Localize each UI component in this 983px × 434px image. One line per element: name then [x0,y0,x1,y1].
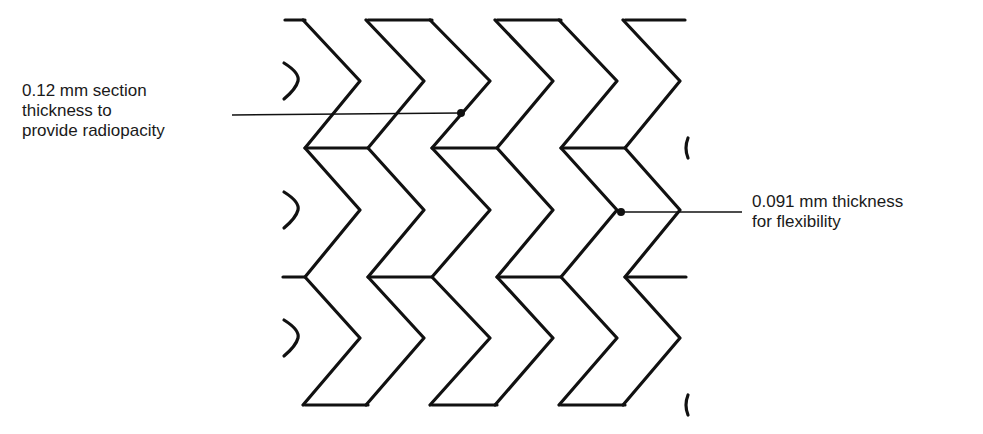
annotation-flexibility: 0.091 mm thickness for flexibility [752,192,903,232]
left-partial-arc-1 [284,63,298,99]
right-partial-arc-2 [686,395,688,415]
leader-dot-radiopacity [457,109,465,117]
annotation-radiopacity: 0.12 mm section thickness to provide rad… [22,81,165,141]
strut-column-1 [303,20,360,405]
right-partial-arc-1 [686,138,688,158]
stent-struts [283,20,688,415]
leader-dot-flexibility [617,208,625,216]
left-partial-arc-3 [284,320,298,356]
strut-column-2 [366,20,424,405]
leader-line-radiopacity [232,113,461,115]
leader-lines [232,109,742,216]
strut-column-5 [559,20,617,405]
strut-column-3 [430,20,490,405]
strut-column-4 [495,20,553,405]
left-partial-arc-2 [284,192,298,228]
